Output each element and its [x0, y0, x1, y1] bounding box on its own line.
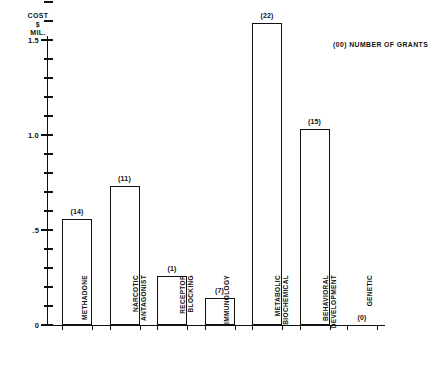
x-axis-label-line-1: BEHAVIORAL — [322, 275, 330, 331]
x-tick — [347, 325, 348, 330]
x-tick — [205, 325, 206, 330]
x-tick — [377, 325, 378, 330]
x-axis-label: RECEPTORBLOCKING — [179, 275, 194, 331]
y-tick-label: 1.5 — [5, 36, 39, 45]
x-axis-label-line-2: BLOCKING — [187, 275, 195, 331]
y-tick-minor — [44, 1, 53, 2]
y-tick-minor — [44, 267, 53, 268]
bar-value-label: (0) — [337, 314, 387, 321]
x-axis-label-line-1: RECEPTOR — [179, 275, 187, 331]
bar-value-label: (14) — [52, 208, 102, 215]
y-tick-minor — [44, 96, 53, 97]
y-tick-major — [41, 39, 53, 40]
y-tick-minor — [44, 305, 53, 306]
x-axis-label-line-1: GENETIC — [366, 275, 374, 331]
x-axis-label-line-1: METHADONE — [81, 275, 89, 331]
y-tick-minor — [44, 58, 53, 59]
x-axis-label-line-2: DEVELOPMENT — [329, 275, 337, 331]
x-tick — [235, 325, 236, 330]
x-tick — [110, 325, 111, 330]
chart-container: COST $ MIL. 0.51.01.5 (14)(11)(1)(7)(22)… — [0, 0, 428, 386]
bar-value-label: (1) — [147, 265, 197, 272]
x-axis-label: GENETIC — [366, 275, 374, 331]
bar-value-label: (22) — [242, 12, 292, 19]
y-tick-label: 1.0 — [5, 131, 39, 140]
bar-value-label: (15) — [290, 118, 340, 125]
x-axis-label-line-1: NARCOTIC — [132, 275, 140, 331]
y-tick-major — [41, 324, 53, 325]
x-axis-label: NARCOTICANTAGONIST — [132, 275, 147, 331]
x-tick — [157, 325, 158, 330]
x-axis-label-line-2: ANTAGONIST — [139, 275, 147, 331]
x-axis-label: BEHAVIORALDEVELOPMENT — [322, 275, 337, 331]
x-axis-label: IMMUNOLOGY — [223, 275, 231, 331]
y-tick-minor — [44, 286, 53, 287]
y-tick-minor — [44, 153, 53, 154]
x-tick — [252, 325, 253, 330]
y-axis-title: COST $ MIL. — [16, 12, 60, 38]
bar-value-label: (11) — [100, 175, 150, 182]
y-tick-label: .5 — [5, 226, 39, 235]
y-tick-minor — [44, 172, 53, 173]
bar-value-label: (7) — [195, 287, 245, 294]
y-tick-minor — [44, 191, 53, 192]
x-axis-label-line-1: IMMUNOLOGY — [223, 275, 231, 331]
y-axis-title-line-2: $ — [16, 21, 60, 30]
x-axis-label-line-1: METABOLIC — [274, 275, 282, 331]
y-tick-label: 0 — [5, 321, 39, 330]
y-axis-line — [47, 36, 48, 326]
y-tick-minor — [44, 115, 53, 116]
x-tick — [300, 325, 301, 330]
y-tick-major — [41, 134, 53, 135]
y-tick-major — [41, 229, 53, 230]
y-tick-minor — [44, 248, 53, 249]
y-tick-minor — [44, 20, 53, 21]
x-axis-label: METABOLICBIOCHEMICAL — [274, 275, 289, 331]
x-tick — [62, 325, 63, 330]
y-axis-title-line-1: COST — [16, 12, 60, 21]
y-tick-minor — [44, 77, 53, 78]
x-axis-label: METHADONE — [81, 275, 89, 331]
x-tick — [92, 325, 93, 330]
x-axis-label-line-2: BIOCHEMICAL — [282, 275, 290, 331]
legend-label: (00) NUMBER OF GRANTS — [333, 41, 428, 48]
